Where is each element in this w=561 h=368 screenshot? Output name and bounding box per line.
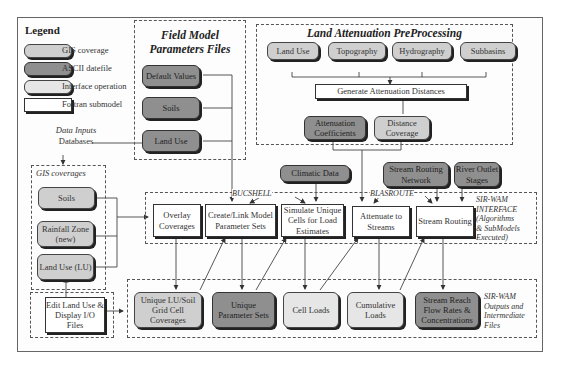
legend-label-fortran: Fortran submodel: [62, 99, 122, 109]
databases-label: Databases: [46, 136, 106, 146]
legend-label-ascii: ASCII datefile: [62, 63, 112, 73]
outputs-caption-line1: SIR-WAM: [484, 292, 525, 302]
edit-land-use-display-io[interactable]: Edit Land Use & Display I/O Files: [45, 297, 105, 333]
outputs-caption: SIR-WAM Outputs and Intermediate Files: [484, 292, 525, 330]
unique-lu-soil-grid-cell-coverages[interactable]: Unique LU/Soil Grid Cell Coverages: [134, 292, 202, 328]
cell-loads[interactable]: Cell Loads: [283, 292, 339, 328]
default-values-file[interactable]: Default Values: [142, 65, 200, 87]
subbasins-coverage[interactable]: Subbasins: [460, 42, 516, 60]
data-inputs-label: Data Inputs: [46, 125, 106, 135]
field-model-title: Field Model Parameters Files: [134, 28, 246, 57]
outputs-caption-line4: Files: [484, 321, 525, 331]
interface-caption-line5: Executed): [476, 233, 520, 243]
soils-coverage[interactable]: Soils: [38, 187, 95, 209]
distance-coverage[interactable]: Distance Coverage: [374, 116, 430, 140]
climatic-data-file[interactable]: Climatic Data: [280, 165, 350, 182]
rainfall-zone-coverage[interactable]: Rainfall Zone (new): [37, 221, 94, 247]
interface-caption-line4: & SubModels: [476, 224, 520, 234]
create-link-parameter-sets-step[interactable]: Create/Link Model Parameter Sets: [205, 204, 276, 237]
attenuation-coefficients-file[interactable]: Attenuation Coefficients: [304, 116, 366, 140]
river-outlet-stages-file[interactable]: River Outlet Stages: [454, 162, 500, 187]
interface-caption: SIR-WAM INTERFACE (Algorithms & SubModel…: [476, 195, 520, 243]
generate-attenuation-distances[interactable]: Generate Attenuation Distances: [315, 84, 467, 99]
cumulative-loads[interactable]: Cumulative Loads: [347, 292, 404, 328]
interface-caption-line3: (Algorithms: [476, 214, 520, 224]
land-attenuation-title: Land Attenuation PreProcessing: [256, 27, 513, 39]
topography-coverage[interactable]: Topography: [328, 42, 386, 60]
land-use-coverage[interactable]: Land Use: [267, 42, 319, 60]
unique-parameter-sets[interactable]: Unique Parameter Sets: [212, 292, 275, 328]
field-model-title-line1: Field Model: [134, 28, 246, 42]
outputs-caption-line3: Intermediate: [484, 311, 525, 321]
stream-routing-network-file[interactable]: Stream Routing Network: [383, 162, 449, 187]
legend-label-interface: Interface operation: [62, 81, 126, 91]
simulate-unique-cells-step[interactable]: Simulate Unique Cells for Load Estimates: [281, 204, 344, 237]
legend-label-gis: GIS coverage: [62, 45, 109, 55]
bucshell-label: BUCSHELL: [232, 189, 272, 198]
overlay-coverages-step[interactable]: Overlay Coverages: [153, 204, 201, 237]
gis-coverages-title: GIS coverages: [36, 168, 86, 178]
attenuate-to-streams-step[interactable]: Attenuate to Streams: [352, 206, 410, 237]
stream-routing-step[interactable]: Stream Routing: [416, 206, 474, 237]
field-model-title-line2: Parameters Files: [134, 42, 246, 56]
stream-reach-flow-rates-concentrations[interactable]: Stream Reach Flow Rates & Concentrations: [415, 292, 479, 328]
legend-title: Legend: [25, 24, 60, 36]
blasroute-label: BLASROUTE: [370, 189, 414, 198]
interface-caption-line2: INTERFACE: [476, 205, 520, 215]
hydrography-coverage[interactable]: Hydrography: [392, 42, 452, 60]
soils-parameter-file[interactable]: Soils: [142, 97, 200, 119]
interface-caption-line1: SIR-WAM: [476, 195, 520, 205]
land-use-parameter-file[interactable]: Land Use: [142, 130, 200, 152]
outputs-caption-line2: Outputs and: [484, 302, 525, 312]
land-use-lu-coverage[interactable]: Land Use (LU): [37, 254, 94, 280]
